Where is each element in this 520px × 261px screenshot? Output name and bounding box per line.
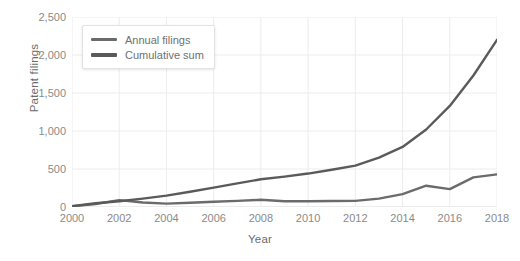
x-axis-tick-label: 2006: [201, 212, 225, 224]
legend-item-label: Cumulative sum: [125, 49, 204, 61]
x-axis-tick-label: 2000: [60, 212, 84, 224]
x-axis-tick-labels: 2000200220042006200820102012201420162018: [72, 212, 497, 228]
series-line: [72, 174, 497, 206]
y-axis-tick-label: 1,500: [6, 87, 66, 99]
y-axis-tick-labels: 05001,0001,5002,0002,500: [0, 17, 66, 207]
y-axis-tick-label: 1,000: [6, 125, 66, 137]
legend-line-swatch: [91, 53, 117, 57]
x-axis-tick-label: 2014: [390, 212, 414, 224]
x-axis-tick-label: 2018: [485, 212, 509, 224]
x-axis-tick-label: 2004: [154, 212, 178, 224]
x-axis-tick-label: 2008: [249, 212, 273, 224]
y-axis-tick-label: 0: [6, 201, 66, 213]
x-axis-tick-label: 2002: [107, 212, 131, 224]
y-axis-tick-label: 2,500: [6, 11, 66, 23]
line-chart: Patent filings 05001,0001,5002,0002,500 …: [0, 0, 520, 261]
legend-item[interactable]: Annual filings: [91, 32, 204, 47]
x-axis-tick-label: 2010: [296, 212, 320, 224]
chart-legend: Annual filingsCumulative sum: [82, 25, 215, 69]
legend-line-swatch: [91, 38, 117, 41]
legend-item[interactable]: Cumulative sum: [91, 47, 204, 62]
legend-item-label: Annual filings: [125, 34, 190, 46]
y-axis-tick-label: 2,000: [6, 49, 66, 61]
x-axis-tick-label: 2016: [438, 212, 462, 224]
x-axis-tick-label: 2012: [343, 212, 367, 224]
x-axis-title: Year: [0, 233, 520, 245]
y-axis-tick-label: 500: [6, 163, 66, 175]
